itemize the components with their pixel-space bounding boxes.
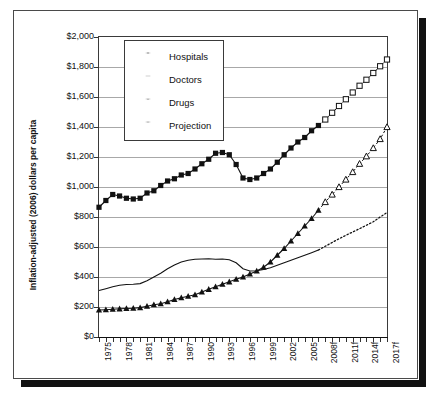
legend-label: Doctors — [169, 74, 202, 85]
data-point — [213, 151, 218, 156]
x-axis-tick-label: 1975 — [103, 342, 113, 361]
data-point — [240, 274, 246, 280]
x-axis-tick-label: 1993 — [226, 342, 236, 361]
x-axis-tick-mark — [305, 338, 306, 342]
line-chart: Inflation-adjusted (2006) dollars per ca… — [0, 0, 443, 401]
data-point — [370, 145, 376, 151]
x-axis-tick-label: 2017f — [391, 342, 401, 363]
data-point — [323, 117, 328, 122]
data-point — [172, 176, 177, 181]
y-axis-tick-labels: $0$200$400$600$800$1,000$1,200$1,400$1,6… — [46, 0, 94, 401]
data-point — [124, 196, 129, 201]
data-point — [110, 192, 115, 197]
y-axis-tick-label: $1,200 — [46, 151, 94, 161]
x-axis-tick-label: 2005 — [309, 342, 319, 361]
x-axis-tick-mark — [284, 338, 285, 342]
x-axis-tick-mark — [380, 338, 381, 342]
legend-marker-open-triangle — [133, 121, 163, 123]
y-axis-title: Inflation-adjusted (2006) dollars per ca… — [28, 100, 38, 310]
data-point — [261, 171, 266, 176]
legend-item-doctors[interactable]: Doctors — [131, 70, 223, 92]
data-point — [330, 110, 335, 115]
y-axis-tick-label: $1,600 — [46, 91, 94, 101]
x-axis-tick-mark — [325, 338, 326, 342]
x-axis-tick-mark — [202, 338, 203, 342]
x-axis-tick-mark — [161, 338, 162, 342]
data-point — [350, 90, 355, 95]
data-point — [144, 190, 149, 195]
data-point — [227, 152, 232, 157]
data-point — [206, 157, 211, 162]
legend-marker-filled-square — [133, 52, 163, 54]
y-axis-tick-label: $400 — [46, 271, 94, 281]
x-axis-tick-label: 1999 — [268, 342, 278, 361]
x-axis-tick-mark — [120, 338, 121, 342]
data-point — [179, 172, 184, 177]
x-axis-tick-label: 1984 — [165, 342, 175, 361]
chart-legend: HospitalsDoctorsDrugsProjection — [124, 40, 224, 141]
data-point — [288, 145, 293, 150]
x-axis-tick-mark — [181, 338, 182, 342]
data-point — [117, 193, 122, 198]
legend-item-hospitals[interactable]: Hospitals — [131, 47, 223, 69]
data-point — [364, 77, 369, 82]
legend-item-projection[interactable]: Projection — [131, 116, 223, 138]
x-axis-tick-mark — [387, 338, 388, 342]
x-axis-tick-mark — [264, 338, 265, 342]
x-axis-tick-label: 1987 — [185, 342, 195, 361]
x-axis-tick-mark — [346, 338, 347, 342]
data-point — [158, 183, 163, 188]
data-point — [357, 83, 362, 88]
data-point — [165, 178, 170, 183]
x-axis-tick-mark — [222, 338, 223, 342]
data-point — [384, 124, 390, 130]
data-point — [295, 139, 300, 144]
data-point — [254, 175, 259, 180]
x-axis-tick-label: 2011f — [350, 342, 360, 363]
data-point — [282, 152, 287, 157]
y-axis-tick-label: $600 — [46, 241, 94, 251]
x-axis-tick-mark — [339, 338, 340, 342]
data-point — [220, 150, 225, 155]
data-point — [315, 207, 321, 213]
data-point — [378, 64, 383, 69]
plot-border-right — [387, 36, 388, 338]
x-axis-tick-mark — [99, 338, 100, 342]
data-point — [371, 70, 376, 75]
data-point — [316, 123, 321, 128]
y-axis-tick-label: $1,400 — [46, 121, 94, 131]
data-point — [131, 196, 136, 201]
data-point — [138, 196, 143, 201]
y-axis-tick-label: $200 — [46, 301, 94, 311]
legend-label: Projection — [169, 120, 211, 131]
legend-marker-line — [133, 75, 163, 77]
y-axis-tick-label: $2,000 — [46, 31, 94, 41]
legend-label: Drugs — [169, 97, 194, 108]
data-point — [234, 162, 239, 167]
x-axis-tick-mark — [195, 338, 196, 342]
data-point — [309, 128, 314, 133]
x-axis-tick-label: 2002 — [288, 342, 298, 361]
data-point — [302, 135, 307, 140]
data-point — [199, 161, 204, 166]
x-axis-tick-label: 1990 — [206, 342, 216, 361]
y-axis-tick-label: $1,000 — [46, 181, 94, 191]
data-point — [336, 184, 342, 190]
x-axis-tick-mark — [243, 338, 244, 342]
data-point — [356, 161, 362, 167]
data-point — [268, 166, 273, 171]
legend-marker-filled-triangle — [133, 98, 163, 100]
y-axis-tick-label: $0 — [46, 331, 94, 341]
legend-item-drugs[interactable]: Drugs — [131, 93, 223, 115]
x-axis-tick-label: 2014f — [370, 342, 380, 363]
x-axis-tick-label: 1996 — [247, 342, 257, 361]
x-axis-tick-label: 1981 — [144, 342, 154, 361]
legend-label: Hospitals — [169, 51, 208, 62]
x-axis-tick-mark — [236, 338, 237, 342]
data-point — [103, 198, 108, 203]
data-point — [343, 97, 348, 102]
data-point — [275, 160, 280, 165]
x-axis-tick-mark — [366, 338, 367, 342]
data-point — [247, 271, 253, 277]
data-point — [151, 188, 156, 193]
